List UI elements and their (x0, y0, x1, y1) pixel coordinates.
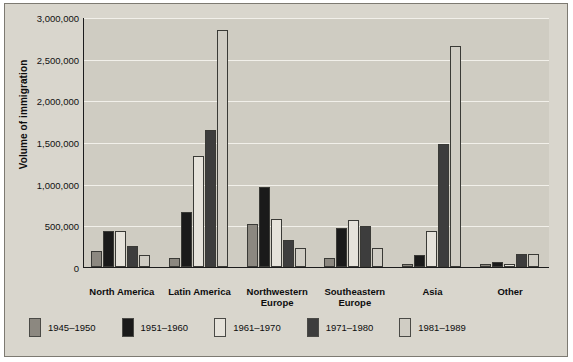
bar (205, 130, 216, 267)
bar (259, 187, 270, 267)
legend-swatch (307, 318, 319, 337)
y-axis-title: Volume of immigration (18, 35, 29, 195)
bar (247, 224, 258, 267)
legend-swatch (122, 318, 134, 337)
bar (127, 246, 138, 267)
legend-label: 1945–1950 (48, 322, 96, 333)
legend-item: 1981–1989 (399, 318, 466, 337)
legend-item: 1971–1980 (307, 318, 374, 337)
legend-item: 1945–1950 (29, 318, 96, 337)
y-axis-tick-label: 2,000,000 (37, 96, 79, 107)
bar (402, 264, 413, 267)
bar (492, 262, 503, 267)
chart-legend: 1945–19501951–19601961–19701971–19801981… (29, 316, 545, 338)
bar (348, 220, 359, 267)
legend-label: 1951–1960 (141, 322, 189, 333)
gridline (84, 185, 549, 186)
bar (295, 248, 306, 267)
bar (91, 251, 102, 267)
y-axis-tick-label: 3,000,000 (37, 13, 79, 24)
chart-card: 0500,0001,000,0001,500,0002,000,0002,500… (4, 3, 568, 357)
legend-label: 1961–1970 (233, 322, 281, 333)
bar (528, 254, 539, 267)
bar (115, 231, 126, 267)
y-axis-tick-label: 1,500,000 (37, 138, 79, 149)
legend-swatch (29, 318, 41, 337)
bar (360, 226, 371, 267)
gridline (84, 60, 549, 61)
y-axis-tick-label: 1,000,000 (37, 179, 79, 190)
bar (414, 255, 425, 268)
gridline (84, 101, 549, 102)
legend-swatch (399, 318, 411, 337)
bar (193, 156, 204, 267)
legend-label: 1971–1980 (326, 322, 374, 333)
plot-area (83, 18, 549, 268)
plot-wrapper: North AmericaLatin AmericaNorthwestern E… (83, 18, 549, 268)
legend-label: 1981–1989 (418, 322, 466, 333)
bar (271, 219, 282, 267)
y-axis-tick-label: 500,000 (45, 221, 79, 232)
bar (438, 144, 449, 267)
bar (516, 254, 527, 267)
bar (103, 231, 114, 267)
bar (336, 228, 347, 267)
legend-swatch (214, 318, 226, 337)
x-axis-group-label: Other (463, 286, 557, 297)
gridline (84, 226, 549, 227)
legend-item: 1951–1960 (122, 318, 189, 337)
bar (217, 30, 228, 267)
legend-item: 1961–1970 (214, 318, 281, 337)
y-axis-tick-label: 2,500,000 (37, 54, 79, 65)
y-axis-tick-label: 0 (74, 263, 79, 274)
gridline (84, 18, 549, 19)
bar (426, 231, 437, 267)
bar (139, 255, 150, 267)
bar (181, 212, 192, 267)
bar (324, 258, 335, 267)
bar (450, 46, 461, 267)
bar (169, 258, 180, 267)
bar (480, 264, 491, 267)
bar (283, 240, 294, 268)
bar (504, 264, 515, 267)
bar (372, 248, 383, 267)
gridline (84, 143, 549, 144)
